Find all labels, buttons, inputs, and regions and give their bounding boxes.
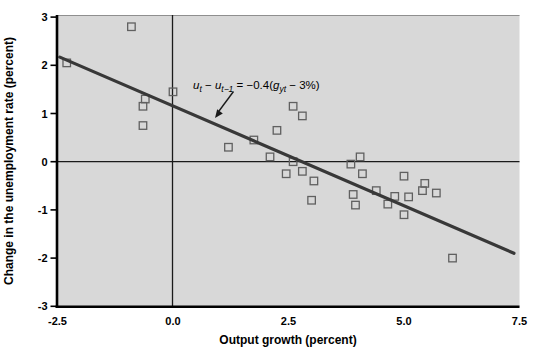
- chart-canvas: 3210-1-2-3 -2.50.02.55.07.5 ut − ut−1 = …: [0, 0, 539, 359]
- x-tick-label: -2.5: [48, 315, 67, 327]
- x-tick-label: 0.0: [165, 315, 180, 327]
- y-tick-label: 3: [41, 11, 47, 23]
- okun-law-figure: 3210-1-2-3 -2.50.02.55.07.5 ut − ut−1 = …: [0, 0, 539, 359]
- x-axis-label: Output growth (percent): [219, 333, 356, 347]
- x-tick-label: 7.5: [512, 315, 527, 327]
- y-tick-label: -2: [38, 252, 48, 264]
- y-axis-tick-labels: 3210-1-2-3: [38, 11, 48, 312]
- y-tick-label: -1: [38, 204, 48, 216]
- y-tick-label: 1: [41, 108, 47, 120]
- y-tick-label: 0: [41, 156, 47, 168]
- x-axis-tick-labels: -2.50.02.55.07.5: [48, 315, 527, 327]
- plot-area: [58, 15, 520, 307]
- y-axis-label: Change in the unemployment rate (percent…: [2, 37, 16, 285]
- y-tick-label: -3: [38, 300, 48, 312]
- x-tick-label: 5.0: [396, 315, 411, 327]
- y-tick-label: 2: [41, 59, 47, 71]
- x-tick-label: 2.5: [281, 315, 296, 327]
